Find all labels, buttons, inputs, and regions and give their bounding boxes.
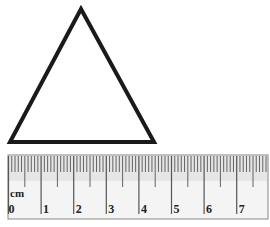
cm-label: 5 [174,202,180,216]
unit-label: cm [10,187,24,199]
diagram-canvas: cm 01234567 [0,0,270,227]
ruler: cm 01234567 [8,155,268,219]
cm-label: 6 [206,202,212,216]
cm-label: 1 [43,202,49,216]
cm-label: 7 [239,202,245,216]
cm-label: 0 [9,202,15,216]
cm-label: 4 [141,202,147,216]
triangle-shape [10,9,154,142]
cm-label: 3 [108,202,114,216]
cm-label: 2 [76,202,82,216]
